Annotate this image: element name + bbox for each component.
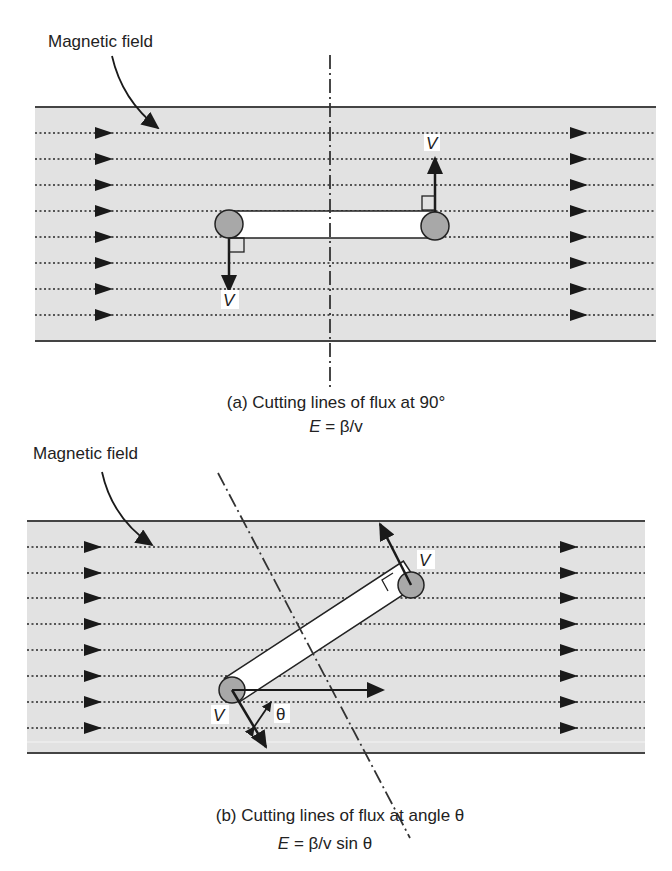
conductor-end-left-a — [215, 210, 243, 238]
field-label-a: Magnetic field — [48, 32, 153, 51]
flux-cutting-diagram: V V Magnetic field (a) Cutting lines of … — [0, 0, 672, 871]
conductor-a — [229, 211, 435, 238]
velocity-label-lower-b: V — [213, 706, 226, 725]
velocity-label-upper-b: V — [419, 551, 432, 570]
velocity-label-bottom-a: V — [223, 291, 236, 310]
equation-a: E = β/v — [309, 417, 363, 436]
velocity-label-top-a: V — [426, 134, 439, 153]
caption-a: (a) Cutting lines of flux at 90° — [227, 393, 445, 412]
panel-a: V V Magnetic field (a) Cutting lines of … — [35, 32, 656, 436]
panel-b: V V θ Magnetic field (b) Cutting lines o… — [27, 444, 645, 853]
field-label-b: Magnetic field — [33, 444, 138, 463]
equation-b: E = β/v sin θ — [278, 834, 372, 853]
angle-label-theta: θ — [276, 705, 285, 724]
conductor-end-right-a — [421, 212, 449, 240]
caption-b: (b) Cutting lines of flux at angle θ — [216, 806, 465, 825]
